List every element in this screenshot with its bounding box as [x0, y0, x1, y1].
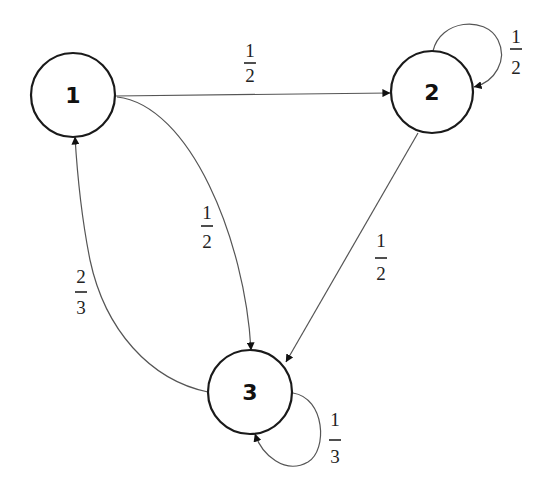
node-3-label: 3 — [242, 380, 257, 405]
weight-2-to-2-denominator: 2 — [511, 57, 521, 78]
weight-label-3-to-3: 1 3 — [329, 409, 341, 467]
weight-3-to-1-denominator: 3 — [76, 297, 86, 318]
node-1: 1 — [31, 53, 115, 137]
weight-label-2-to-2: 1 2 — [510, 26, 522, 78]
node-1-label: 1 — [65, 83, 80, 108]
edge-1-to-3 — [117, 97, 251, 350]
weight-2-to-3-numerator: 1 — [376, 230, 386, 251]
weight-label-3-to-1: 2 3 — [75, 266, 87, 318]
weight-1-to-3-denominator: 2 — [202, 231, 212, 252]
weight-label-2-to-3: 1 2 — [375, 230, 387, 284]
edge-1-to-2 — [115, 93, 390, 96]
edge-3-to-1 — [75, 137, 208, 392]
weight-1-to-3-numerator: 1 — [202, 202, 212, 223]
weight-label-1-to-3: 1 2 — [201, 202, 213, 252]
node-2-label: 2 — [424, 80, 439, 105]
edge-2-to-3 — [286, 133, 418, 362]
weight-2-to-2-numerator: 1 — [511, 26, 521, 47]
weight-label-1-to-2: 1 2 — [244, 40, 256, 86]
weight-3-to-3-denominator: 3 — [330, 446, 340, 467]
node-2: 2 — [391, 51, 473, 133]
weight-3-to-1-numerator: 2 — [76, 266, 86, 287]
weight-3-to-3-numerator: 1 — [330, 409, 340, 430]
weight-1-to-2-denominator: 2 — [245, 65, 255, 86]
node-3: 3 — [208, 350, 292, 434]
weight-2-to-3-denominator: 2 — [376, 263, 386, 284]
markov-chain-diagram: 1 2 3 1 2 1 2 1 2 1 2 2 3 1 3 — [0, 0, 552, 491]
weight-1-to-2-numerator: 1 — [245, 40, 255, 61]
